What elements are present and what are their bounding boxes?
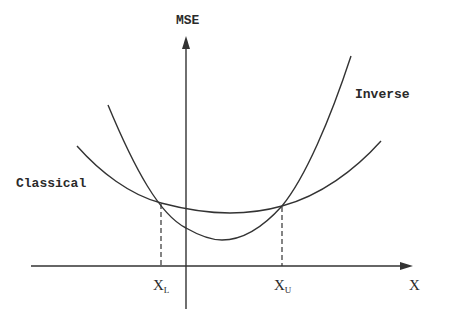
x-axis-label: X: [409, 277, 420, 294]
xu-label: XU: [274, 277, 291, 295]
y-axis-label: MSE: [176, 13, 199, 28]
classical-label: Classical: [16, 176, 86, 191]
inverse-label: Inverse: [355, 87, 410, 102]
classical-curve: [77, 141, 381, 213]
xl-label: XL: [153, 277, 169, 295]
mse-diagram: [0, 0, 454, 319]
x-axis-arrow-icon: [400, 262, 413, 270]
y-axis-arrow-icon: [182, 36, 190, 49]
